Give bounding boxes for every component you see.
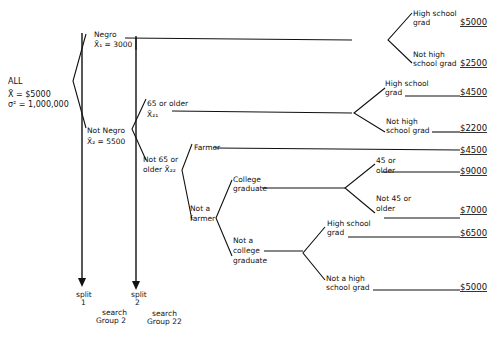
leaf-label: Not a high [326,274,365,283]
older-label: 65 or older [147,99,189,108]
college-label: graduate [233,184,267,193]
not-college-label: college [233,246,260,255]
not-negro-mean: X̄₂ = 5500 [87,137,126,146]
root-variance: σ² = 1,000,000 [8,100,69,109]
leaf-value: $7000 [460,205,487,215]
leaf-label: High school [385,79,429,88]
leaf-label: 45 or [376,156,397,165]
root-fork [73,34,86,128]
root-label: ALL [8,77,23,86]
college-fork [345,164,375,213]
root-mean: X̄ = $5000 [8,89,51,99]
negro-fork [388,13,412,63]
leaf-value: $5000 [460,282,487,292]
not-college-label: Not a [233,236,253,245]
younger-label: Not 65 or [143,155,179,164]
leaf-value: $2200 [460,123,487,133]
search-group-22-label: Group 22 [147,317,182,326]
leaf-label: High school [327,219,371,228]
not-college-label: graduate [233,256,267,265]
not-negro-label: Not Negro [87,126,125,135]
older-mean: X̄₂₁ [147,110,158,119]
tree-diagram: ALL X̄ = $5000 σ² = 1,000,000 Negro X̄₁ … [0,0,498,339]
leaf-label: Not 45 or [376,194,412,203]
leaf-label: school grad [386,126,430,135]
leaf-label: Not high [386,117,418,126]
farmer-label: Farmer [194,143,221,152]
split-2-label: 2 [135,298,140,307]
split-1-label: 1 [81,298,86,307]
leaf-label: grad [327,228,344,237]
leaf-value: $4500 [460,145,487,155]
negro-mean: X̄₁ = 3000 [94,40,133,49]
leaf-value: $5000 [460,17,487,27]
not-farmer-label: farmer [190,214,216,223]
negro-label: Negro [94,30,117,39]
not-farmer-fork [216,180,232,256]
leaf-value: $4500 [460,87,487,97]
leaf-value: $2500 [460,58,487,68]
not-college-fork [303,227,325,280]
leaf-label: grad [413,18,430,27]
leaf-value: $6500 [460,228,487,238]
split-1-arrow [78,33,86,287]
search-group-2-label: Group 2 [96,316,126,325]
leaf-label: grad [385,88,402,97]
leaf-value: $9000 [460,166,487,176]
not-farmer-label: Not a [190,204,210,213]
older-fork [354,88,385,132]
leaf-label: school grad [413,59,457,68]
split-2-arrow [132,36,140,290]
leaf-label: older [376,204,396,213]
leaf-label: High school [413,9,457,18]
leaf-label: Not high [413,50,445,59]
leaf-label: school grad [326,283,370,292]
college-label: College [233,175,261,184]
not-negro-fork [132,99,146,160]
leaf-label: older [376,166,396,175]
negro-branch-line [125,38,352,40]
younger-mean: older X̄₂₂ [143,165,176,174]
